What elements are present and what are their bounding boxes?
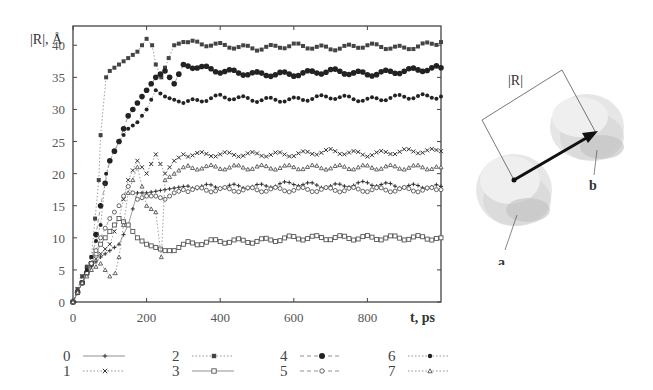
series-3 (71, 217, 443, 304)
legend-marker-icon (190, 350, 236, 362)
distance-time-chart: 0510152025303540 0200400600800 |R|, Å t,… (0, 0, 460, 340)
y-tick-label: 35 (52, 70, 65, 85)
legend-marker-icon (406, 365, 452, 377)
y-tick-label: 15 (52, 199, 65, 214)
y-axis: 0510152025303540 (52, 38, 441, 310)
x-axis-title: t, ps (410, 310, 435, 325)
series-5 (71, 184, 443, 304)
legend-item-6: 6 (388, 349, 452, 363)
legend-marker-icon (81, 365, 127, 377)
series-layer (70, 37, 444, 305)
x-tick-label: 800 (358, 310, 378, 325)
y-axis-title: |R|, Å (30, 32, 63, 47)
legend-item-5: 5 (280, 364, 344, 378)
domain-a-label: a (498, 255, 505, 265)
series-2 (71, 37, 443, 304)
legend-label: 7 (388, 363, 406, 380)
legend-marker-icon (298, 365, 344, 377)
legend-marker-icon (190, 365, 236, 377)
distance-label: |R| (508, 73, 523, 88)
legend-marker-icon (81, 350, 127, 362)
y-tick-label: 0 (59, 295, 66, 310)
domain-b-label: b (589, 178, 597, 193)
legend-item-3: 3 (172, 364, 236, 378)
legend-label: 3 (172, 363, 190, 380)
legend-marker-icon (406, 350, 452, 362)
y-tick-label: 20 (52, 167, 65, 182)
legend: 01234567 (55, 345, 475, 380)
y-tick-label: 25 (52, 135, 65, 150)
legend-item-7: 7 (388, 364, 452, 378)
y-tick-label: 30 (52, 102, 65, 117)
domain-distance-diagram: |R| a b (462, 45, 652, 265)
legend-item-4: 4 (280, 349, 344, 363)
x-tick-label: 400 (210, 310, 230, 325)
y-tick-label: 5 (59, 263, 66, 278)
x-tick-label: 200 (137, 310, 157, 325)
legend-item-0: 0 (63, 349, 127, 363)
legend-item-2: 2 (172, 349, 236, 363)
x-tick-label: 600 (284, 310, 304, 325)
legend-label: 5 (280, 363, 298, 380)
legend-label: 1 (63, 363, 81, 380)
y-tick-label: 10 (52, 231, 65, 246)
legend-marker-icon (298, 350, 344, 362)
legend-item-1: 1 (63, 364, 127, 378)
x-tick-label: 0 (70, 310, 77, 325)
